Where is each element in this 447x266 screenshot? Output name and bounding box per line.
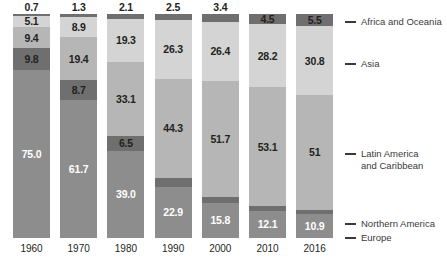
bar-segment[interactable]: 26.4 <box>202 22 239 81</box>
bar-segment[interactable]: 75.0 <box>13 70 50 238</box>
bar-segment[interactable]: 51 <box>296 95 333 209</box>
bar-segment[interactable]: 4.5 <box>249 14 286 24</box>
bar-stack: 4.528.253.112.1 <box>249 14 286 238</box>
bar-stack: 26.451.715.8 <box>202 14 239 238</box>
segment-value-label: 15.8 <box>202 215 239 226</box>
bar-segment[interactable]: 8.9 <box>60 17 97 37</box>
x-axis-tick-1980: 1980 <box>107 243 144 254</box>
bar-segment[interactable]: 9.4 <box>13 27 50 48</box>
segment-value-label: 9.4 <box>13 32 50 43</box>
legend-dash-icon <box>345 63 356 65</box>
segment-value-label: 9.8 <box>13 54 50 65</box>
bar-segment[interactable]: 51.7 <box>202 81 239 197</box>
bar-segment[interactable]: 22.9 <box>155 187 192 238</box>
bar-total-label: 3.4 <box>202 1 239 13</box>
bar-segment[interactable]: 5.1 <box>13 16 50 27</box>
x-axis-tick-1960: 1960 <box>13 243 50 254</box>
bar-segment[interactable]: 12.1 <box>249 211 286 238</box>
bar-segment[interactable]: 28.2 <box>249 24 286 87</box>
bar-segment[interactable]: 10.9 <box>296 214 333 238</box>
bar-total-label: 2.5 <box>155 1 192 13</box>
legend-label: Asia <box>361 58 379 70</box>
legend-label: Europe <box>361 232 392 244</box>
bar-column[interactable]: 0.75.19.49.875.01960 <box>13 0 50 266</box>
bar-column[interactable]: 1.38.919.48.761.71970 <box>60 0 97 266</box>
bar-column[interactable]: 1.85.530.85110.92016 <box>296 0 333 266</box>
legend-label: Latin America and Caribbean <box>361 148 423 172</box>
bar-segment[interactable]: 9.8 <box>13 48 50 70</box>
segment-value-label: 30.8 <box>296 56 333 67</box>
segment-value-label: 44.3 <box>155 123 192 134</box>
bar-stack: 5.19.49.875.0 <box>13 14 50 238</box>
segment-value-label: 75.0 <box>13 149 50 160</box>
bar-segment[interactable]: 26.3 <box>155 20 192 79</box>
x-axis-tick-2000: 2000 <box>202 243 239 254</box>
bar-segment[interactable]: 19.3 <box>107 19 144 62</box>
x-axis-tick-1990: 1990 <box>155 243 192 254</box>
legend-dash-icon <box>345 237 356 239</box>
legend-item[interactable]: Latin America and Caribbean <box>345 148 423 172</box>
bar-segment[interactable]: 44.3 <box>155 79 192 178</box>
x-axis-tick-2010: 2010 <box>249 243 286 254</box>
legend-dash-icon <box>345 21 356 23</box>
segment-value-label: 5.5 <box>296 15 333 26</box>
bar-stack: 26.344.322.9 <box>155 14 192 238</box>
bar-segment[interactable]: 61.7 <box>60 100 97 238</box>
segment-value-label: 26.3 <box>155 44 192 55</box>
x-axis-tick-1970: 1970 <box>60 243 97 254</box>
segment-value-label: 8.9 <box>60 22 97 33</box>
plot-area: 0.75.19.49.875.019601.38.919.48.761.7197… <box>0 0 345 266</box>
legend-dash-icon <box>345 153 356 155</box>
bar-segment[interactable]: 19.4 <box>60 37 97 80</box>
segment-value-label: 12.1 <box>249 219 286 230</box>
bar-column[interactable]: 3.42.726.451.715.82000 <box>202 0 239 266</box>
segment-value-label: 26.4 <box>202 46 239 57</box>
bar-total-label: 2.1 <box>107 1 144 13</box>
segment-value-label: 28.2 <box>249 50 286 61</box>
segment-value-label: 5.1 <box>13 16 50 27</box>
segment-value-label: 19.4 <box>60 53 97 64</box>
bar-segment[interactable]: 5.5 <box>296 14 333 26</box>
legend-item[interactable]: Europe <box>345 232 392 244</box>
legend-item[interactable]: Asia <box>345 58 379 70</box>
segment-value-label: 53.1 <box>249 141 286 152</box>
bar-stack: 19.333.16.539.0 <box>107 14 144 238</box>
bar-segment[interactable] <box>202 14 239 22</box>
segment-value-label: 61.7 <box>60 164 97 175</box>
chart-legend: Africa and OceaniaAsiaLatin America and … <box>345 0 447 266</box>
segment-value-label: 51.7 <box>202 133 239 144</box>
bar-column[interactable]: 2.119.333.16.539.01980 <box>107 0 144 266</box>
bar-segment[interactable]: 33.1 <box>107 62 144 136</box>
bar-segment[interactable] <box>155 178 192 187</box>
bar-stack: 8.919.48.761.7 <box>60 14 97 238</box>
legend-label: Northern America <box>361 218 435 230</box>
bar-total-label: 0.7 <box>13 1 50 13</box>
segment-value-label: 4.5 <box>249 14 286 24</box>
bar-stack: 5.530.85110.9 <box>296 14 333 238</box>
bar-segment[interactable]: 15.8 <box>202 203 239 238</box>
bar-total-label: 1.3 <box>60 1 97 13</box>
legend-dash-icon <box>345 223 356 225</box>
bar-segment[interactable]: 6.5 <box>107 136 144 151</box>
segment-value-label: 6.5 <box>107 138 144 149</box>
segment-value-label: 8.7 <box>60 85 97 96</box>
segment-value-label: 19.3 <box>107 35 144 46</box>
legend-item[interactable]: Africa and Oceania <box>345 16 442 28</box>
legend-item[interactable]: Northern America <box>345 218 435 230</box>
x-axis-tick-2016: 2016 <box>296 243 333 254</box>
segment-value-label: 10.9 <box>296 221 333 232</box>
segment-value-label: 39.0 <box>107 189 144 200</box>
bar-segment[interactable]: 39.0 <box>107 151 144 238</box>
segment-value-label: 33.1 <box>107 94 144 105</box>
bar-segment[interactable]: 53.1 <box>249 87 286 206</box>
segment-value-label: 22.9 <box>155 207 192 218</box>
segment-value-label: 51 <box>296 147 333 158</box>
bar-column[interactable]: 2.54.026.344.322.91990 <box>155 0 192 266</box>
bar-column[interactable]: 24.528.253.112.12010 <box>249 0 286 266</box>
bar-segment[interactable]: 8.7 <box>60 80 97 99</box>
stacked-bar-chart: 0.75.19.49.875.019601.38.919.48.761.7197… <box>0 0 447 266</box>
legend-label: Africa and Oceania <box>361 16 442 28</box>
bar-segment[interactable]: 30.8 <box>296 26 333 95</box>
